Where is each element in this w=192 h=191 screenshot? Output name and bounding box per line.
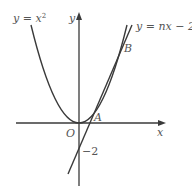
parabola-label: y = x2	[12, 12, 46, 25]
line-y-nx-minus-2	[68, 25, 132, 174]
x-axis-label: x	[157, 126, 164, 139]
point-b-label: B	[123, 42, 132, 55]
y-intercept-label: −2	[82, 145, 98, 158]
function-graph: y = x2 y y = nx − 2 B A O x −2	[0, 0, 192, 191]
y-axis-label: y	[68, 12, 76, 25]
y-axis-arrow-icon	[76, 12, 82, 20]
origin-label: O	[66, 127, 75, 140]
point-a-label: A	[93, 111, 102, 124]
line-label: y = nx − 2	[135, 20, 192, 33]
